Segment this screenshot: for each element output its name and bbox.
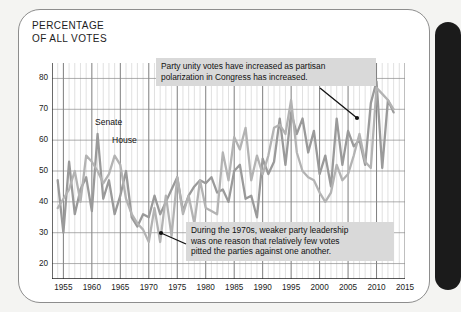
series-label-house: House <box>112 135 137 145</box>
x-tick-1965: 1965 <box>105 283 135 292</box>
x-tick-2010: 2010 <box>362 283 392 292</box>
annotation-1970s: During the 1970s, weaker party leadershi… <box>186 222 394 261</box>
series-label-senate: Senate <box>95 117 122 127</box>
x-tick-1960: 1960 <box>77 283 107 292</box>
x-tick-2000: 2000 <box>305 283 335 292</box>
y-tick-80: 80 <box>26 73 48 82</box>
y-tick-40: 40 <box>26 197 48 206</box>
x-tick-1980: 1980 <box>191 283 221 292</box>
x-tick-1995: 1995 <box>276 283 306 292</box>
screenshot-page: PERCENTAGE OF ALL VOTES Party unity vote… <box>0 0 461 312</box>
x-tick-1985: 1985 <box>219 283 249 292</box>
y-tick-70: 70 <box>26 104 48 113</box>
book-binding-bar <box>435 22 461 290</box>
x-tick-2015: 2015 <box>390 283 420 292</box>
x-tick-1955: 1955 <box>48 283 78 292</box>
series-line-senate <box>58 82 394 233</box>
x-tick-1970: 1970 <box>134 283 164 292</box>
x-tick-2005: 2005 <box>333 283 363 292</box>
page-title: PERCENTAGE OF ALL VOTES <box>32 20 107 45</box>
y-tick-30: 30 <box>26 228 48 237</box>
y-tick-20: 20 <box>26 259 48 268</box>
y-tick-60: 60 <box>26 135 48 144</box>
annotation-polarization: Party unity votes have increased as part… <box>156 58 376 86</box>
x-tick-1975: 1975 <box>162 283 192 292</box>
x-tick-1990: 1990 <box>248 283 278 292</box>
y-tick-50: 50 <box>26 166 48 175</box>
